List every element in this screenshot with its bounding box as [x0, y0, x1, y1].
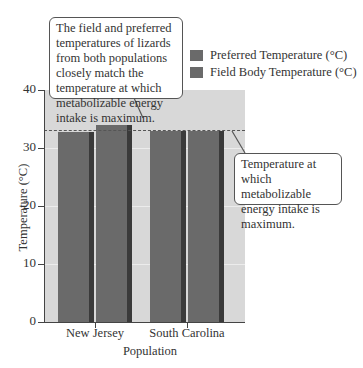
callout-right: Temperature at which metabolizable energ…	[234, 153, 342, 205]
legend-item-field: Field Body Temperature (°C)	[190, 65, 357, 80]
legend-label: Preferred Temperature (°C)	[210, 48, 347, 63]
legend-swatch	[190, 67, 203, 78]
legend-swatch	[190, 50, 203, 61]
callout-top: The field and preferred temperatures of …	[49, 17, 183, 99]
legend-item-preferred: Preferred Temperature (°C)	[190, 48, 347, 63]
legend-label: Field Body Temperature (°C)	[210, 65, 357, 80]
